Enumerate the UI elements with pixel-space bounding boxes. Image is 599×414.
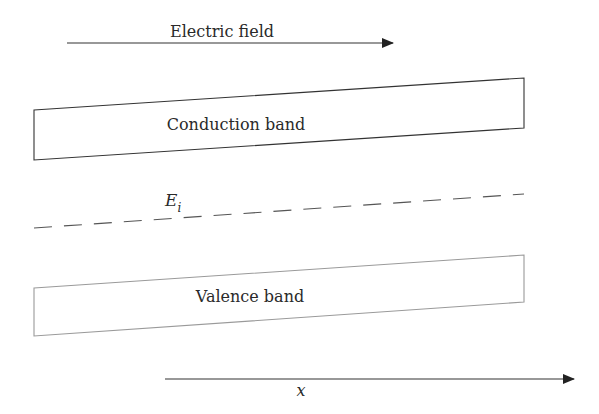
- intrinsic-level-label: Ei: [164, 190, 181, 215]
- band-diagram: Electric field Conduction band Ei Valenc…: [0, 0, 599, 414]
- valence-band: Valence band: [34, 255, 524, 336]
- electric-field-arrow: Electric field: [67, 22, 393, 43]
- x-axis-label: x: [296, 381, 305, 400]
- conduction-band-label: Conduction band: [167, 115, 306, 134]
- conduction-band: Conduction band: [34, 78, 524, 160]
- band-diagram-svg: Electric field Conduction band Ei Valenc…: [0, 0, 599, 414]
- electric-field-label: Electric field: [170, 22, 274, 41]
- intrinsic-level: Ei: [34, 190, 524, 228]
- valence-band-label: Valence band: [195, 287, 304, 306]
- x-axis-arrow: x: [165, 379, 574, 400]
